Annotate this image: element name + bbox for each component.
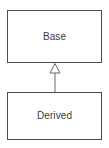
- uml-class-base[interactable]: Base: [7, 10, 102, 63]
- uml-class-name-derived: Derived: [37, 110, 72, 122]
- uml-class-name-base: Base: [43, 31, 66, 43]
- hollow-triangle-arrowhead-icon: [50, 64, 60, 74]
- uml-class-diagram: Base Derived: [0, 0, 109, 148]
- uml-class-derived[interactable]: Derived: [7, 92, 102, 140]
